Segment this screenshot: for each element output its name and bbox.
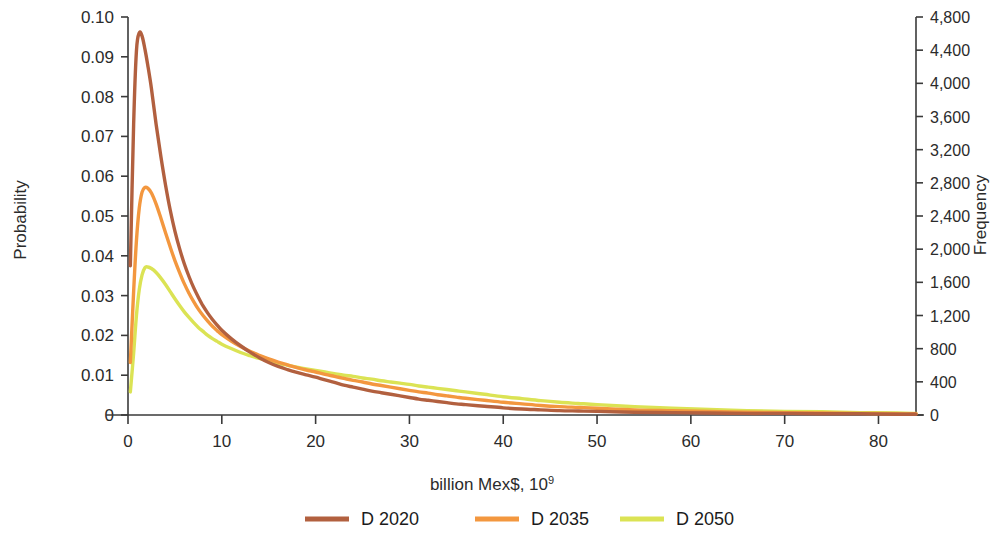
legend-label: D 2050 [676, 509, 734, 529]
y-axis-tick-label: 0.08 [81, 88, 114, 107]
x-axis-tick-label: 60 [681, 432, 700, 451]
y-axis-tick-label: 0.04 [81, 247, 114, 266]
y2-axis-tick-label: 3,200 [930, 142, 970, 159]
chart-figure: 00.010.020.030.040.050.060.070.080.090.1… [0, 0, 1003, 537]
y-axis-tick-label: 0.02 [81, 326, 114, 345]
y2-axis-title: Frequency [971, 174, 990, 255]
legend-label: D 2035 [531, 509, 589, 529]
y-axis-tick-label: 0.07 [81, 127, 114, 146]
x-axis-tick-label: 40 [494, 432, 513, 451]
y2-axis-tick-label: 1,200 [930, 308, 970, 325]
y-axis-tick-label: 0.01 [81, 366, 114, 385]
y-axis-tick-label: 0.09 [81, 48, 114, 67]
y2-axis-tick-label: 800 [930, 341, 957, 358]
y2-axis-tick-label: 4,800 [930, 9, 970, 26]
y-axis-tick-label: 0.03 [81, 287, 114, 306]
y-axis-tick-label: 0.10 [81, 8, 114, 27]
y-axis-tick-label: 0.06 [81, 167, 114, 186]
x-axis-tick-label: 20 [306, 432, 325, 451]
y-axis-tick-label: 0.05 [81, 207, 114, 226]
x-axis-tick-label: 30 [400, 432, 419, 451]
y2-axis-tick-label: 2,000 [930, 241, 970, 258]
x-axis-tick-label: 80 [869, 432, 888, 451]
y2-axis-tick-label: 1,600 [930, 274, 970, 291]
y2-axis-tick-label: 2,800 [930, 175, 970, 192]
y2-axis-tick-label: 4,000 [930, 75, 970, 92]
y2-axis-tick-label: 400 [930, 374, 957, 391]
y2-axis-tick-label: 2,400 [930, 208, 970, 225]
x-axis-tick-label: 10 [212, 432, 231, 451]
distribution-chart: 00.010.020.030.040.050.060.070.080.090.1… [0, 0, 1003, 537]
x-axis-tick-label: 50 [588, 432, 607, 451]
y2-axis-tick-label: 0 [930, 407, 939, 424]
y-axis-title: Probability [11, 180, 30, 260]
x-axis-title: billion Mex$, 109 [430, 474, 554, 494]
x-axis-tick-label: 70 [775, 432, 794, 451]
x-axis-title-main: billion Mex$, 10 [430, 475, 548, 494]
y2-axis-tick-label: 4,400 [930, 42, 970, 59]
y2-axis-tick-label: 3,600 [930, 109, 970, 126]
legend-label: D 2020 [361, 509, 419, 529]
x-axis-title-superscript: 9 [548, 474, 554, 486]
x-axis-tick-label: 0 [123, 432, 132, 451]
